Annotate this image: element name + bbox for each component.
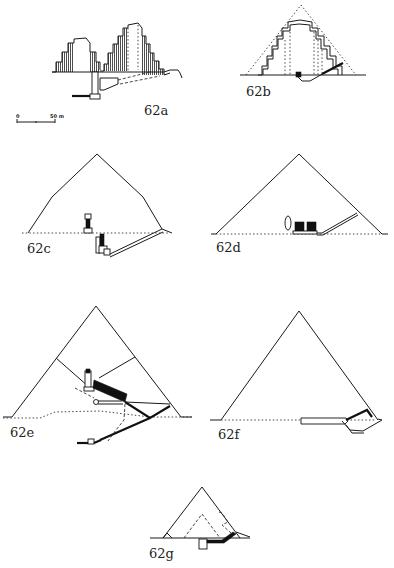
base-details	[163, 532, 250, 538]
label-62b: 62b	[246, 84, 271, 99]
scale-end-label: 50 m	[50, 113, 64, 119]
chamber-2	[307, 222, 316, 231]
scale-start-label: 0	[16, 113, 20, 119]
grand-gallery	[93, 380, 127, 402]
descending-passage	[298, 64, 340, 81]
lower-chamber	[96, 234, 110, 255]
chamber	[296, 72, 301, 77]
ground-line	[3, 411, 192, 418]
panel-62c: 62c	[22, 154, 172, 257]
step-core-inner	[263, 24, 338, 75]
ascending-passage	[125, 402, 170, 418]
chamber-base	[293, 231, 317, 234]
chamber-corbel	[285, 216, 291, 230]
panel-62g: 62g	[149, 487, 250, 561]
label-62e: 62e	[10, 425, 35, 440]
panel-62b: 62b	[240, 5, 366, 99]
panel-62a: 62a	[52, 23, 182, 118]
pyramid-outline	[163, 487, 240, 538]
descending-passage	[110, 229, 163, 257]
descending-passage	[100, 418, 150, 440]
panel-62e: 62e	[3, 306, 192, 444]
pyramid-outline	[28, 154, 172, 233]
substructure	[100, 78, 118, 90]
descending-passage	[317, 213, 358, 235]
kings-chamber	[84, 369, 94, 391]
step-pyramid-back	[100, 23, 164, 75]
label-62a: 62a	[144, 103, 169, 118]
robber-tunnel	[219, 512, 231, 533]
panel-62f: 62f	[210, 311, 382, 442]
entrance-passage	[346, 410, 372, 420]
inner-pyramid	[184, 514, 220, 538]
step-pyramid-front	[52, 38, 100, 72]
burial-chamber	[199, 539, 207, 549]
panel-62d: 62d	[211, 154, 388, 255]
step-core-outer	[258, 20, 342, 75]
upper-chamber	[84, 214, 92, 233]
label-62g: 62g	[149, 546, 174, 561]
queens-chamber	[94, 400, 124, 405]
subterranean-chamber	[77, 439, 101, 444]
label-62d: 62d	[216, 240, 241, 255]
scale-bar: 0 50 m	[16, 113, 64, 123]
chamber-1	[295, 222, 304, 231]
pyramid-outline	[221, 311, 378, 420]
label-62f: 62f	[218, 427, 241, 442]
label-62c: 62c	[27, 241, 51, 256]
pyramid-sections-figure: 62a 0 50 m 62b 62c	[0, 0, 394, 568]
chamber-line	[125, 402, 170, 404]
burial-chamber	[90, 94, 100, 99]
